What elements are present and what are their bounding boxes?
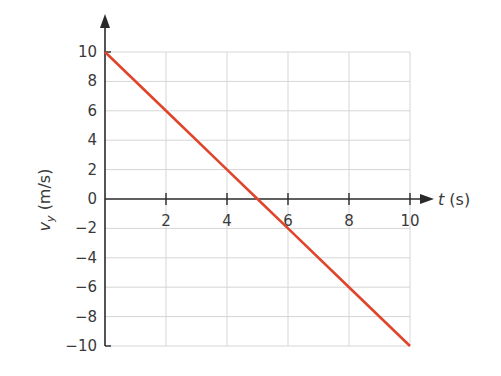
x-tick-label: 2 (161, 212, 171, 230)
y-tick-label: 10 (78, 43, 97, 61)
y-axis-arrow-icon (100, 14, 110, 28)
x-tick-label: 10 (400, 212, 419, 230)
y-tick-labels: 10 8 6 4 2 0 −2 −4 −6 −8 −10 (65, 43, 97, 355)
y-tick-label: 0 (87, 190, 97, 208)
x-tick-label: 4 (222, 212, 232, 230)
y-tick-label: −8 (75, 308, 97, 326)
x-tick-labels: 2 4 6 8 10 (161, 212, 419, 230)
y-tick-label: −4 (75, 249, 97, 267)
x-tick-label: 8 (344, 212, 354, 230)
chart: 10 8 6 4 2 0 −2 −4 −6 −8 −10 2 4 6 8 10 … (0, 0, 501, 376)
y-tick-label: 4 (87, 131, 97, 149)
y-tick-label: 8 (87, 72, 97, 90)
y-tick-label: 2 (87, 161, 97, 179)
y-tick-label: −2 (75, 219, 97, 237)
y-axis-label: vy (m/s) (35, 169, 57, 232)
x-axis-label: t (s) (438, 190, 470, 209)
y-tick-label: −10 (65, 337, 97, 355)
y-axis (100, 14, 111, 346)
y-tick-label: −6 (75, 278, 97, 296)
x-axis (105, 193, 434, 205)
x-axis-arrow-icon (420, 194, 434, 204)
y-tick-label: 6 (87, 102, 97, 120)
